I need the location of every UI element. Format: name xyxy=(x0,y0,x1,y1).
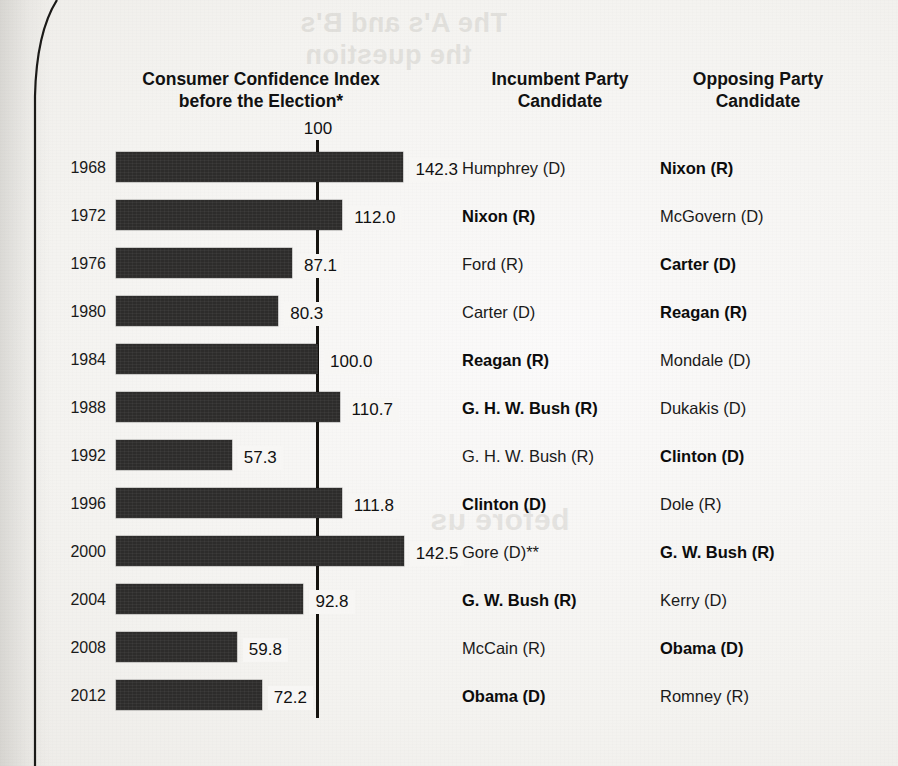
bar-value-label: 59.8 xyxy=(243,638,288,662)
opposing-candidate: Clinton (D) xyxy=(660,447,870,466)
incumbent-candidate: Nixon (R) xyxy=(462,207,662,226)
opposing-candidate: Mondale (D) xyxy=(660,351,870,370)
incumbent-candidate: Gore (D)** xyxy=(462,543,662,562)
bar-value-label: 111.8 xyxy=(348,494,400,518)
opposing-candidate: McGovern (D) xyxy=(660,207,870,226)
confidence-index-bar xyxy=(116,536,404,566)
bar-value-label: 112.0 xyxy=(348,206,401,230)
axis-tick-label-100: 100 xyxy=(288,119,348,139)
incumbent-candidate: G. H. W. Bush (R) xyxy=(462,447,662,466)
confidence-index-bar xyxy=(116,344,318,374)
opposing-candidate: Reagan (R) xyxy=(660,303,870,322)
bar-value-label: 92.8 xyxy=(309,590,354,614)
incumbent-candidate: Obama (D) xyxy=(462,687,662,706)
column-header-confidence-index: Consumer Confidence Index before the Ele… xyxy=(96,68,426,113)
column-header-incumbent-party-candidate: Incumbent Party Candidate xyxy=(462,68,658,113)
chart-row: 200859.8McCain (R)Obama (D) xyxy=(0,628,898,676)
opposing-candidate: Nixon (R) xyxy=(660,159,870,178)
chart-row: 197687.1Ford (R)Carter (D) xyxy=(0,244,898,292)
opposing-candidate: Carter (D) xyxy=(660,255,870,274)
chart-row: 1984100.0Reagan (R)Mondale (D) xyxy=(0,340,898,388)
row-year-label: 2012 xyxy=(30,687,106,705)
confidence-index-bar xyxy=(116,200,342,230)
chart-row: 1972112.0Nixon (R)McGovern (D) xyxy=(0,196,898,244)
incumbent-candidate: G. W. Bush (R) xyxy=(462,591,662,610)
confidence-index-bar xyxy=(116,680,262,710)
opposing-candidate: Obama (D) xyxy=(660,639,870,658)
column-header-opposing-line2: Candidate xyxy=(660,90,856,112)
bar-value-label: 100.0 xyxy=(324,350,379,374)
row-year-label: 1996 xyxy=(30,495,106,513)
chart-row: 200492.8G. W. Bush (R)Kerry (D) xyxy=(0,580,898,628)
incumbent-candidate: Reagan (R) xyxy=(462,351,662,370)
chart-row: 198080.3Carter (D)Reagan (R) xyxy=(0,292,898,340)
confidence-index-bar xyxy=(116,392,340,422)
opposing-candidate: G. W. Bush (R) xyxy=(660,543,870,562)
opposing-candidate: Romney (R) xyxy=(660,687,870,706)
confidence-index-bar xyxy=(116,584,303,614)
column-header-incumbent-line2: Candidate xyxy=(462,90,658,112)
row-year-label: 2008 xyxy=(30,639,106,657)
row-year-label: 1984 xyxy=(30,351,106,369)
incumbent-candidate: G. H. W. Bush (R) xyxy=(462,399,662,418)
incumbent-candidate: Humphrey (D) xyxy=(462,159,662,178)
chart-row: 1988110.7G. H. W. Bush (R)Dukakis (D) xyxy=(0,388,898,436)
row-year-label: 1968 xyxy=(30,159,106,177)
row-year-label: 1972 xyxy=(30,207,106,225)
incumbent-candidate: McCain (R) xyxy=(462,639,662,658)
consumer-confidence-election-chart: Consumer Confidence Index before the Ele… xyxy=(0,0,898,766)
bar-value-label: 110.7 xyxy=(346,398,399,422)
column-header-opposing-party-candidate: Opposing Party Candidate xyxy=(660,68,856,113)
row-year-label: 1988 xyxy=(30,399,106,417)
chart-row: 201272.2Obama (D)Romney (R) xyxy=(0,676,898,724)
chart-row: 1996111.8Clinton (D)Dole (R) xyxy=(0,484,898,532)
confidence-index-bar xyxy=(116,152,403,182)
opposing-candidate: Dukakis (D) xyxy=(660,399,870,418)
row-year-label: 1976 xyxy=(30,255,106,273)
opposing-candidate: Dole (R) xyxy=(660,495,870,514)
bar-value-label: 57.3 xyxy=(238,446,283,470)
column-header-opposing-line1: Opposing Party xyxy=(660,68,856,90)
incumbent-candidate: Clinton (D) xyxy=(462,495,662,514)
confidence-index-bar xyxy=(116,632,237,662)
confidence-index-bar xyxy=(116,440,232,470)
row-year-label: 2004 xyxy=(30,591,106,609)
column-header-confidence-index-line2: before the Election* xyxy=(96,90,426,112)
column-header-confidence-index-line1: Consumer Confidence Index xyxy=(96,68,426,90)
confidence-index-bar xyxy=(116,248,292,278)
bar-value-label: 142.3 xyxy=(409,158,464,182)
chart-row: 1968142.3Humphrey (D)Nixon (R) xyxy=(0,148,898,196)
incumbent-candidate: Ford (R) xyxy=(462,255,662,274)
incumbent-candidate: Carter (D) xyxy=(462,303,662,322)
confidence-index-bar xyxy=(116,296,278,326)
bar-value-label: 72.2 xyxy=(268,686,313,710)
chart-row: 2000142.5Gore (D)**G. W. Bush (R) xyxy=(0,532,898,580)
bar-value-label: 80.3 xyxy=(284,302,329,326)
confidence-index-bar xyxy=(116,488,342,518)
bar-value-label: 142.5 xyxy=(410,542,465,566)
column-header-incumbent-line1: Incumbent Party xyxy=(462,68,658,90)
row-year-label: 1980 xyxy=(30,303,106,321)
opposing-candidate: Kerry (D) xyxy=(660,591,870,610)
chart-row: 199257.3G. H. W. Bush (R)Clinton (D) xyxy=(0,436,898,484)
row-year-label: 2000 xyxy=(30,543,106,561)
bar-value-label: 87.1 xyxy=(298,254,343,278)
row-year-label: 1992 xyxy=(30,447,106,465)
